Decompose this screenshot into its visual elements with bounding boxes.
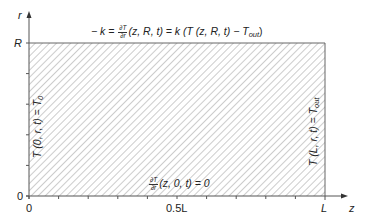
z-tick-label-0: 0 — [26, 203, 32, 214]
z-axis-ticks — [29, 196, 325, 200]
top-boundary-equation: − k = ∂T∂r(z, R, t) = k (T (z, R, t) − T… — [91, 25, 263, 39]
z-axis-label: z — [349, 203, 355, 214]
top-eq-prefix: − k = — [91, 25, 114, 37]
r-tick-label-R: R — [14, 38, 22, 49]
top-eq-fraction: ∂T∂r — [118, 25, 127, 39]
hatched-domain — [29, 43, 325, 196]
r-tick-label-0: 0 — [17, 191, 23, 202]
z-tick-label-L: L — [321, 203, 327, 214]
left-boundary-equation: T (0, r, t) = T0 — [32, 96, 45, 158]
bottom-boundary-equation: ∂T∂r(z, 0, t) = 0 — [146, 177, 212, 191]
right-boundary-equation: T (L, r, t) = Tout — [308, 98, 321, 167]
bottom-eq-fraction: ∂T∂r — [149, 177, 158, 191]
top-eq-mid: (z, R, t) = k (T (z, R, t) − T — [128, 25, 248, 37]
z-tick-label-half: 0.5L — [166, 203, 187, 214]
top-eq-suffix: ) — [259, 25, 263, 37]
top-eq-sub: out — [249, 30, 259, 39]
z-axis-arrow-icon — [341, 194, 348, 199]
r-axis-label: r — [18, 10, 22, 21]
r-axis-arrow-icon — [27, 11, 32, 18]
bottom-eq-rest: (z, 0, t) = 0 — [159, 177, 209, 189]
